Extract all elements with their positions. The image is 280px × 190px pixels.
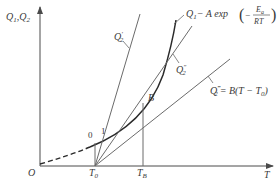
q1-formula-minus: − — [245, 10, 250, 20]
q1-curve-dashed — [40, 147, 90, 164]
point-1-label: 1 — [101, 126, 106, 136]
q1-label: Q1− A exp — [186, 8, 228, 21]
q2-prime-leader — [123, 41, 129, 48]
q1-formula-numerator: Ea — [255, 5, 264, 15]
q2-dprime-leader — [173, 54, 179, 63]
q2-dprime-label: Q″2 — [176, 63, 186, 77]
q1-formula-paren-close: ) — [271, 6, 276, 24]
origin-label: O — [28, 167, 35, 178]
q2-tprime-leader — [208, 76, 213, 83]
q2-tprime-label: Q‴2= B(T − T0) — [210, 84, 269, 98]
point-0-label: 0 — [88, 130, 93, 140]
q1-formula-denominator: RT — [253, 17, 264, 26]
q1-formula-paren-open: ( — [239, 6, 244, 24]
x-axis-label: T — [264, 169, 271, 180]
q1-leader — [174, 15, 184, 24]
q2-prime-label: Q′2 — [114, 30, 124, 44]
tb-label: TB — [137, 167, 148, 180]
t0-label: T0 — [89, 167, 99, 180]
y-axis-label: Q1,Q2 — [6, 11, 30, 24]
ignition-diagram: Q1,Q2 O T0 TB T 0 1 B Q′2 Q″2 Q‴2= B(T −… — [0, 0, 280, 190]
point-b-label: B — [148, 92, 154, 103]
